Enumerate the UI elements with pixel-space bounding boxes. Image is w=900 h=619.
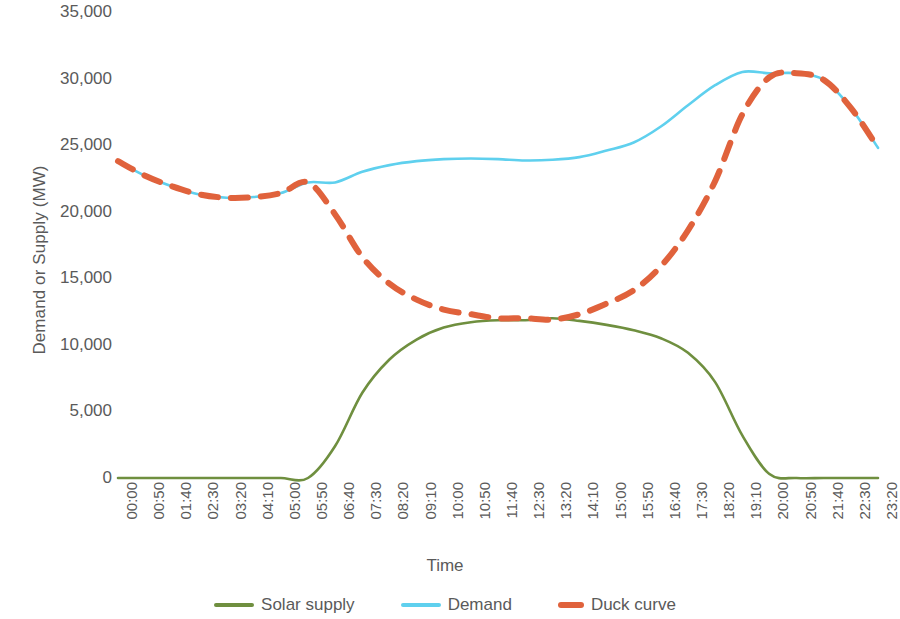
x-axis-tick-label: 03:20 <box>233 482 248 520</box>
y-axis-tick-label: 35,000 <box>16 2 112 22</box>
y-axis-tick-label: 20,000 <box>16 202 112 222</box>
y-axis-tick-label: 0 <box>16 468 112 488</box>
legend-item-solar-supply[interactable]: Solar supply <box>214 595 355 615</box>
legend-swatch-icon <box>401 603 441 607</box>
x-axis-tick-label: 22:30 <box>857 482 872 520</box>
y-axis-tick-label: 30,000 <box>16 69 112 89</box>
x-axis-tick-label: 05:00 <box>287 482 302 520</box>
x-axis-tick-label: 10:00 <box>450 482 465 520</box>
series-line-demand <box>118 71 878 198</box>
x-axis-tick-label: 12:30 <box>531 482 546 520</box>
x-axis-tick-label: 13:20 <box>558 482 573 520</box>
series-line-solar-supply <box>118 318 878 480</box>
y-axis-tick-labels: 35,00030,00025,00020,00015,00010,0005,00… <box>0 0 112 619</box>
x-axis-tick-label: 00:50 <box>151 482 166 520</box>
x-axis-tick-label: 17:30 <box>694 482 709 520</box>
x-axis-tick-label: 04:10 <box>260 482 275 520</box>
x-axis-tick-label: 09:10 <box>423 482 438 520</box>
y-axis-tick-label: 10,000 <box>16 335 112 355</box>
x-axis-tick-label: 16:40 <box>667 482 682 520</box>
x-axis-tick-label: 02:30 <box>205 482 220 520</box>
x-axis-tick-label: 01:40 <box>178 482 193 520</box>
x-axis-tick-label: 11:40 <box>504 482 519 518</box>
y-axis-tick-label: 25,000 <box>16 135 112 155</box>
x-axis-tick-label: 19:10 <box>748 482 763 520</box>
legend-item-label: Solar supply <box>261 595 355 615</box>
series-line-duck-curve <box>118 72 878 319</box>
series-canvas <box>118 12 878 478</box>
plot-area <box>118 12 878 478</box>
legend-item-label: Demand <box>448 595 512 615</box>
legend-swatch-icon <box>214 603 254 607</box>
x-axis-tick-label: 08:20 <box>395 482 410 520</box>
y-axis-tick-label: 5,000 <box>16 401 112 421</box>
x-axis-tick-label: 07:30 <box>368 482 383 520</box>
x-axis-tick-label: 10:50 <box>477 482 492 520</box>
x-axis-tick-label: 15:00 <box>613 482 628 520</box>
x-axis-tick-label: 23:20 <box>884 482 899 520</box>
x-axis-tick-label: 21:40 <box>830 482 845 520</box>
legend-item-demand[interactable]: Demand <box>401 595 512 615</box>
y-axis-tick-label: 15,000 <box>16 268 112 288</box>
x-axis-tick-label: 18:20 <box>721 482 736 520</box>
legend-item-label: Duck curve <box>591 595 676 615</box>
x-axis-tick-label: 06:40 <box>341 482 356 520</box>
legend-swatch-icon <box>558 602 584 608</box>
x-axis-tick-label: 20:00 <box>775 482 790 520</box>
x-axis-tick-label: 15:50 <box>640 482 655 520</box>
x-axis-tick-label: 20:50 <box>803 482 818 520</box>
x-axis-title: Time <box>0 556 890 576</box>
legend-item-duck-curve[interactable]: Duck curve <box>558 595 676 615</box>
x-axis-tick-label: 14:10 <box>585 482 600 520</box>
x-axis-tick-label: 05:50 <box>314 482 329 520</box>
chart-legend: Solar supplyDemandDuck curve <box>0 590 890 619</box>
x-axis-tick-labels: 00:0000:5001:4002:3003:2004:1005:0005:50… <box>118 482 878 554</box>
x-axis-tick-label: 00:00 <box>124 482 139 520</box>
